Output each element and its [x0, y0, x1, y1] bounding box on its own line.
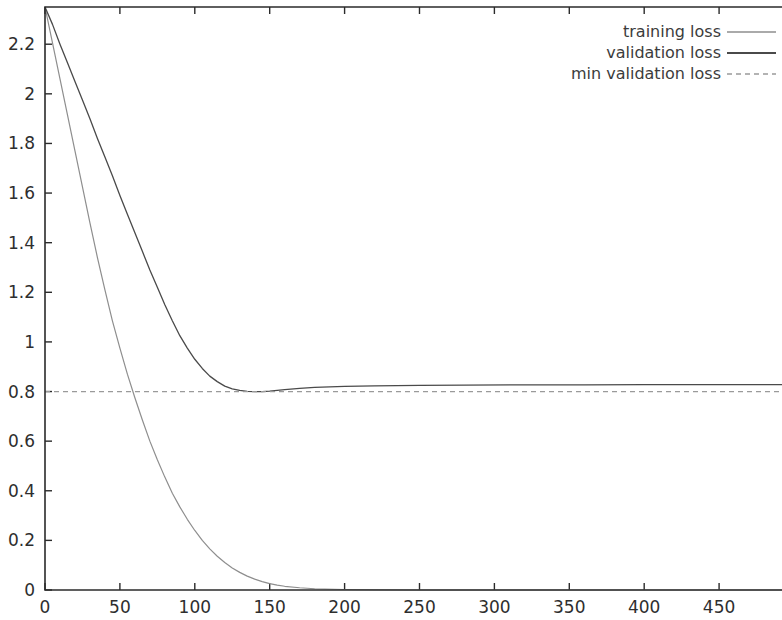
y-tick-label: 0.8 — [8, 382, 35, 402]
legend-label-min-validation-loss: min validation loss — [571, 64, 721, 83]
y-tick-label: 2.2 — [8, 34, 35, 54]
y-tick-label: 1.8 — [8, 133, 35, 153]
x-tick-label: 450 — [703, 597, 735, 617]
y-tick-label: 1 — [24, 332, 35, 352]
x-tick-label: 400 — [628, 597, 660, 617]
legend-label-training-loss: training loss — [623, 22, 721, 41]
x-tick-label: 150 — [253, 597, 285, 617]
x-tick-label: 200 — [328, 597, 360, 617]
y-tick-label: 1.6 — [8, 183, 35, 203]
y-tick-label: 0.2 — [8, 530, 35, 550]
loss-curve-chart: 00.20.40.60.811.21.41.61.822.2 050100150… — [0, 0, 782, 620]
legend-label-validation-loss: validation loss — [606, 43, 721, 62]
x-tick-label: 50 — [109, 597, 131, 617]
x-tick-label: 300 — [478, 597, 510, 617]
plot-background — [0, 0, 782, 620]
y-tick-label: 1.4 — [8, 233, 35, 253]
x-tick-label: 250 — [403, 597, 435, 617]
y-tick-label: 0.4 — [8, 481, 35, 501]
y-tick-label: 1.2 — [8, 282, 35, 302]
y-tick-label: 0 — [24, 580, 35, 600]
y-tick-label: 0.6 — [8, 431, 35, 451]
y-tick-label: 2 — [24, 84, 35, 104]
x-tick-label: 0 — [40, 597, 51, 617]
x-tick-label: 100 — [179, 597, 211, 617]
x-tick-label: 350 — [553, 597, 585, 617]
chart-canvas: 00.20.40.60.811.21.41.61.822.2 050100150… — [0, 0, 782, 620]
